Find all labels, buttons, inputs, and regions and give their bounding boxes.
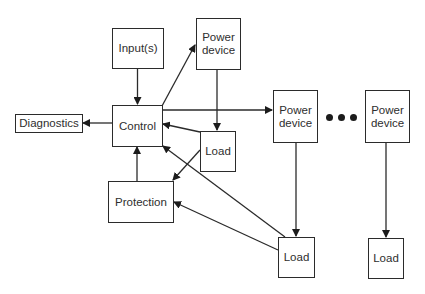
node-power-device-3: Power device — [365, 90, 410, 143]
node-protection: Protection — [108, 181, 174, 223]
node-power-device-2: Power device — [273, 90, 318, 143]
node-load-2: Load — [278, 237, 315, 278]
node-load-3: Load — [368, 238, 404, 279]
node-control: Control — [112, 105, 163, 147]
arrow-load-2-to-protection — [174, 202, 278, 250]
node-load-1: Load — [200, 131, 236, 172]
arrow-control-to-power-device-1 — [162, 45, 195, 106]
node-inputs: Input(s) — [112, 28, 164, 69]
arrow-load-1-to-protection — [173, 150, 200, 180]
ellipsis-dot — [338, 114, 345, 121]
ellipsis-dot — [350, 114, 357, 121]
arrow-load-1-to-control — [163, 124, 200, 132]
node-power-device-1: Power device — [196, 18, 241, 70]
ellipsis-dot — [326, 114, 333, 121]
node-diagnostics: Diagnostics — [15, 114, 83, 133]
